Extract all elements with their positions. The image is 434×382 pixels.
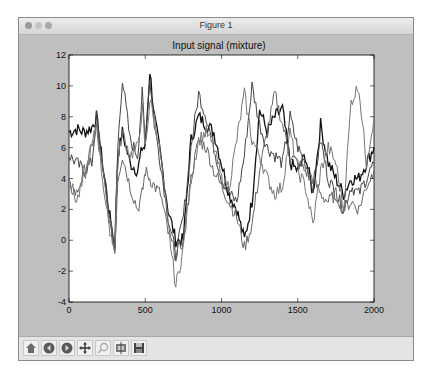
- y-tick-label: 8: [61, 112, 66, 122]
- subplots-button[interactable]: [113, 340, 129, 356]
- forward-arrow-icon: [61, 342, 73, 354]
- y-tick-label: -4: [58, 297, 66, 307]
- pan-move-icon: [79, 342, 91, 354]
- x-tick-label: 0: [66, 305, 71, 315]
- home-button[interactable]: [23, 340, 39, 356]
- chart-title: Input signal (mixture): [172, 40, 265, 51]
- y-tick-label: -2: [58, 266, 66, 276]
- x-tick-label: 500: [138, 305, 153, 315]
- title-bar[interactable]: Figure 1: [19, 18, 413, 35]
- back-button[interactable]: [41, 340, 57, 356]
- navigation-toolbar: [19, 336, 413, 360]
- save-button[interactable]: [131, 340, 147, 356]
- y-tick-label: 10: [56, 81, 66, 91]
- y-tick-label: 4: [61, 174, 66, 184]
- forward-button[interactable]: [59, 340, 75, 356]
- x-tick-label: 1500: [288, 305, 308, 315]
- zoom-button[interactable]: [95, 340, 111, 356]
- y-tick-label: 2: [61, 204, 66, 214]
- window-title: Figure 1: [19, 20, 413, 30]
- pan-button[interactable]: [77, 340, 93, 356]
- figure-window: Figure 1 Input signal (mixture) -4-20246…: [18, 17, 414, 361]
- figure-canvas[interactable]: Input signal (mixture) -4-2024681012 050…: [19, 35, 413, 338]
- y-tick-label: 0: [61, 235, 66, 245]
- home-icon: [25, 342, 37, 354]
- subplots-config-icon: [115, 342, 127, 354]
- line-chart: Input signal (mixture) -4-2024681012 050…: [19, 35, 413, 338]
- x-tick-label: 2000: [364, 305, 384, 315]
- save-floppy-icon: [133, 342, 145, 354]
- zoom-rect-icon: [97, 342, 109, 354]
- x-tick-label: 1000: [211, 305, 231, 315]
- y-tick-label: 6: [61, 143, 66, 153]
- back-arrow-icon: [43, 342, 55, 354]
- y-tick-label: 12: [56, 50, 66, 60]
